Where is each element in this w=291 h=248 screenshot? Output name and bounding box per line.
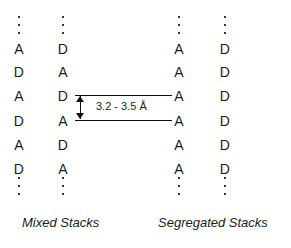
- ellipsis-dot: [62, 185, 64, 187]
- stack-site: A: [50, 65, 76, 79]
- stack-site: A: [6, 42, 32, 56]
- ellipsis-dot: [62, 16, 64, 18]
- ellipsis-dot: [178, 193, 180, 195]
- stack-site: D: [212, 162, 238, 176]
- stack-site: D: [6, 65, 32, 79]
- caption-mixed-stacks: Mixed Stacks: [22, 215, 99, 230]
- double-arrow-shaft: [80, 96, 81, 119]
- ellipsis-bottom-column-2: [50, 177, 76, 195]
- ellipsis-dot: [18, 185, 20, 187]
- ellipsis-dot: [18, 16, 20, 18]
- ellipsis-dot: [224, 16, 226, 18]
- ellipsis-dot: [18, 24, 20, 26]
- ellipsis-dot: [178, 24, 180, 26]
- stacking-motif-figure: A D A D A D D A D A D A: [0, 0, 291, 248]
- stack-site: A: [166, 138, 192, 152]
- arrow-up-icon: [76, 96, 84, 102]
- ellipsis-dot: [224, 24, 226, 26]
- ellipsis-dot: [224, 193, 226, 195]
- ellipsis-top-column-4: [212, 16, 238, 34]
- arrow-down-icon: [76, 113, 84, 119]
- stack-site: D: [6, 162, 32, 176]
- ellipsis-dot: [224, 32, 226, 34]
- stack-site: A: [166, 42, 192, 56]
- stack-site: D: [212, 42, 238, 56]
- stack-site: D: [212, 114, 238, 128]
- stack-site: D: [50, 42, 76, 56]
- ellipsis-bottom-column-3: [166, 177, 192, 195]
- ellipsis-top-column-1: [6, 16, 32, 34]
- ellipsis-dot: [62, 177, 64, 179]
- ellipsis-dot: [62, 24, 64, 26]
- ellipsis-dot: [178, 16, 180, 18]
- guide-line-lower-plane: [75, 120, 172, 121]
- stack-site: A: [166, 89, 192, 103]
- ellipsis-dot: [62, 32, 64, 34]
- stack-site: A: [166, 162, 192, 176]
- stack-site: A: [6, 89, 32, 103]
- ellipsis-dot: [62, 193, 64, 195]
- stack-site: D: [212, 138, 238, 152]
- ellipsis-dot: [178, 177, 180, 179]
- ellipsis-dot: [178, 32, 180, 34]
- caption-segregated-stacks: Segregated Stacks: [158, 215, 268, 230]
- spacing-value-label: 3.2 - 3.5 Å: [96, 100, 147, 112]
- ellipsis-dot: [224, 185, 226, 187]
- ellipsis-bottom-column-4: [212, 177, 238, 195]
- stack-site: D: [212, 89, 238, 103]
- ellipsis-dot: [224, 177, 226, 179]
- stack-site: D: [212, 65, 238, 79]
- stack-site: A: [166, 114, 192, 128]
- ellipsis-dot: [178, 185, 180, 187]
- ellipsis-bottom-column-1: [6, 177, 32, 195]
- ellipsis-top-column-3: [166, 16, 192, 34]
- ellipsis-dot: [18, 177, 20, 179]
- ellipsis-top-column-2: [50, 16, 76, 34]
- guide-line-upper-plane: [75, 95, 172, 96]
- stack-site: D: [50, 89, 76, 103]
- stack-site: D: [50, 138, 76, 152]
- ellipsis-dot: [18, 193, 20, 195]
- stack-site: A: [6, 138, 32, 152]
- stack-site: A: [166, 65, 192, 79]
- stack-site: A: [50, 114, 76, 128]
- stack-site: A: [50, 162, 76, 176]
- stack-site: D: [6, 114, 32, 128]
- interplanar-spacing-annotation: [0, 0, 291, 248]
- ellipsis-dot: [18, 32, 20, 34]
